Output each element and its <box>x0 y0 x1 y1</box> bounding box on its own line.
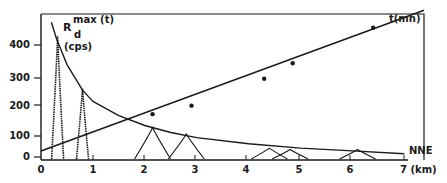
time-data-point <box>291 61 295 65</box>
time-fit-line <box>41 10 424 151</box>
x-tick-6: 6 <box>343 165 357 175</box>
pass-peak-curve <box>135 127 171 159</box>
x-tick-1: 1 <box>86 165 100 175</box>
x-tick-3: 3 <box>188 165 202 175</box>
y-tick-100: 100 <box>4 131 30 141</box>
x-tick-2: 2 <box>137 165 151 175</box>
plot-frame <box>41 14 424 160</box>
pass-peak-curve <box>52 36 64 159</box>
y-tick-400: 400 <box>4 40 30 50</box>
time-data-point <box>150 112 154 116</box>
time-data-point <box>262 77 266 81</box>
time-label: t(mn) <box>389 14 420 24</box>
envelope-curve <box>51 22 404 154</box>
envelope-label-r: R <box>63 22 71 33</box>
y-tick-200: 200 <box>4 101 30 111</box>
time-data-point <box>371 26 375 30</box>
envelope-label-sup: max (t) <box>73 15 114 25</box>
pass-peak-curve <box>272 150 308 159</box>
x-tick-7-km: 7 (km) <box>400 165 437 175</box>
y-tick-0: 0 <box>4 152 30 162</box>
pass-peak-curve <box>77 89 89 159</box>
envelope-label-sub: d <box>74 30 81 40</box>
direction-label: NNE <box>409 146 433 156</box>
y-tick-300: 300 <box>4 73 30 83</box>
x-tick-5: 5 <box>292 165 306 175</box>
x-tick-0: 0 <box>34 165 48 175</box>
time-data-point <box>189 103 193 107</box>
envelope-unit-label: (cps) <box>64 42 92 52</box>
x-tick-4: 4 <box>239 165 253 175</box>
